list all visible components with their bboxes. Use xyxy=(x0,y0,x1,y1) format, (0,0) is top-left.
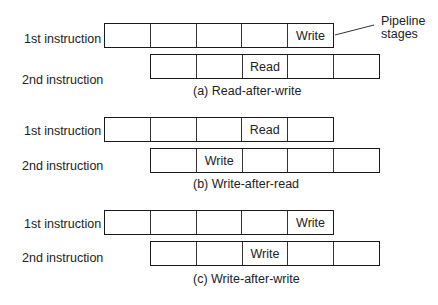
pipeline-stages-callout: Pipeline stages xyxy=(381,15,425,41)
stage-cell xyxy=(241,211,287,234)
stage-cell: Write xyxy=(196,149,242,172)
stage-cell xyxy=(105,118,150,141)
stage-cell xyxy=(196,242,242,265)
stage-cell: Write xyxy=(287,24,333,47)
stage-cell xyxy=(242,149,288,172)
panel-caption: (a) Read-after-write xyxy=(193,84,301,98)
stage-cell xyxy=(333,242,379,265)
second-instruction-label: 2nd instruction xyxy=(22,251,103,265)
first-instruction-label: 1st instruction xyxy=(24,124,101,138)
stage-cell: Write xyxy=(287,211,333,234)
stage-cell xyxy=(287,118,333,141)
stage-cell xyxy=(196,55,242,78)
second-instruction-pipeline: Write xyxy=(150,148,380,173)
stage-cell: Write xyxy=(242,242,288,265)
stage-cell xyxy=(333,55,379,78)
stage-cell: Read xyxy=(241,118,287,141)
panel-caption: (b) Write-after-read xyxy=(193,177,299,191)
first-instruction-pipeline: Read xyxy=(104,117,334,142)
stage-cell xyxy=(333,149,379,172)
second-instruction-label: 2nd instruction xyxy=(22,159,103,173)
stage-cell xyxy=(196,118,242,141)
stage-cell xyxy=(105,211,150,234)
stage-cell xyxy=(287,242,333,265)
stage-cell xyxy=(151,55,196,78)
stage-cell xyxy=(196,211,242,234)
second-instruction-pipeline: Read xyxy=(150,54,380,79)
stage-cell xyxy=(150,24,196,47)
stage-cell xyxy=(150,118,196,141)
stage-cell xyxy=(151,149,196,172)
first-instruction-label: 1st instruction xyxy=(24,217,101,231)
first-instruction-label: 1st instruction xyxy=(24,32,101,46)
second-instruction-pipeline: Write xyxy=(150,241,380,266)
stage-cell xyxy=(196,24,242,47)
stage-cell xyxy=(287,149,333,172)
first-instruction-pipeline: Write xyxy=(104,23,334,48)
callout-line2: stages xyxy=(381,28,425,41)
stage-cell xyxy=(241,24,287,47)
stage-cell xyxy=(105,24,150,47)
stage-cell xyxy=(150,211,196,234)
stage-cell: Read xyxy=(242,55,288,78)
first-instruction-pipeline: Write xyxy=(104,210,334,235)
stage-cell xyxy=(151,242,196,265)
second-instruction-label: 2nd instruction xyxy=(22,73,103,87)
stage-cell xyxy=(287,55,333,78)
panel-caption: (c) Write-after-write xyxy=(193,272,300,286)
